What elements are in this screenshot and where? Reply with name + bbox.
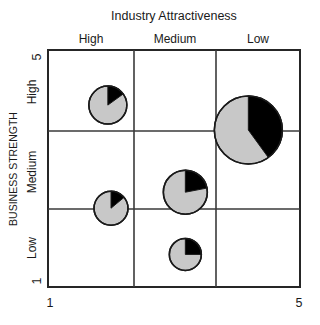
ge-mckinsey-matrix-chart: Industry Attractiveness High Medium Low … — [0, 0, 320, 325]
row-label-medium: Medium — [25, 151, 39, 194]
y-axis-title: BUSINESS STRENGTH — [7, 112, 19, 226]
column-header-low: Low — [247, 32, 269, 46]
chart-title: Industry Attractiveness — [111, 9, 237, 23]
y-axis-tick-min: 1 — [30, 277, 44, 284]
pie-bubble[interactable] — [89, 86, 127, 124]
pie-bubble[interactable] — [163, 170, 207, 214]
column-header-high: High — [79, 32, 104, 46]
pie-bubble[interactable] — [169, 238, 201, 270]
column-header-medium: Medium — [154, 32, 197, 46]
y-axis-tick-max: 5 — [30, 53, 44, 60]
pie-bubble[interactable] — [94, 191, 128, 225]
pie-bubble[interactable] — [214, 96, 282, 164]
row-label-high: High — [25, 80, 39, 105]
row-label-low: Low — [25, 237, 39, 259]
x-axis-tick-min: 1 — [47, 296, 54, 310]
x-axis-tick-max: 5 — [296, 296, 303, 310]
chart-container: Industry Attractiveness High Medium Low … — [0, 0, 320, 325]
